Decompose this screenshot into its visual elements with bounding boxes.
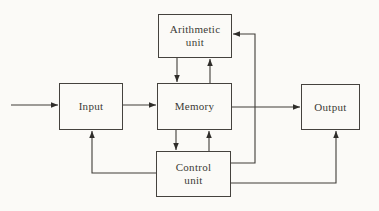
edge-control-to-input [92, 131, 156, 173]
node-arithmetic-label-line2: unit [186, 36, 204, 49]
node-input-label: Input [79, 100, 104, 113]
node-arithmetic-unit: Arithmetic unit [158, 14, 232, 58]
node-output: Output [301, 84, 360, 130]
node-control-label-line1: Control [176, 161, 212, 174]
node-memory-label: Memory [175, 100, 215, 113]
edge-control-to-output [231, 131, 336, 183]
node-input: Input [59, 83, 123, 130]
node-output-label: Output [314, 101, 346, 114]
node-control-unit: Control unit [156, 151, 231, 197]
node-memory: Memory [157, 83, 232, 130]
edge-control-to-arithmetic [231, 34, 255, 163]
node-control-label-line2: unit [184, 174, 202, 187]
node-arithmetic-label-line1: Arithmetic [170, 23, 221, 36]
diagram-canvas: Arithmetic unit Input Memory Output Cont… [0, 0, 379, 211]
